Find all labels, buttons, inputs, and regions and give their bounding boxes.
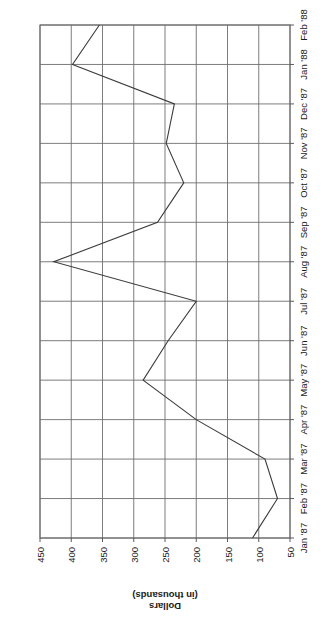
value-tick-label: 100 (253, 547, 264, 623)
category-tick-label: Mar '87 (298, 443, 309, 474)
category-tick-label: Oct '87 (298, 168, 309, 198)
rotated-figure-wrapper: 50100150200250300350400450 Jan '87Feb '8… (0, 0, 323, 623)
value-axis-title-line: Dollars (105, 601, 225, 612)
value-tick-label: 400 (66, 547, 77, 623)
data-series-line (54, 25, 278, 538)
category-tick-label: May '87 (298, 364, 309, 397)
value-tick-label: 450 (35, 547, 46, 623)
category-tick-label: Apr '87 (298, 405, 309, 435)
line-chart-plot (0, 0, 323, 623)
category-tick-label: Aug '87 (298, 246, 309, 278)
category-tick-label: Jun '87 (298, 326, 309, 356)
category-tick-label: Feb '88 (298, 9, 309, 40)
value-axis-title-line: (in thousands) (105, 590, 225, 601)
value-tick-label: 50 (285, 547, 296, 623)
category-tick-label: Jul '87 (298, 288, 309, 315)
category-tick-label: Jan '87 (298, 523, 309, 553)
category-tick-label: Feb '87 (298, 483, 309, 514)
chart-figure: 50100150200250300350400450 Jan '87Feb '8… (0, 0, 323, 623)
category-tick-label: Sep '87 (298, 206, 309, 238)
category-tick-label: Jan '88 (298, 49, 309, 79)
category-tick-label: Nov '87 (298, 127, 309, 159)
value-axis-title: Dollars(in thousands) (105, 590, 225, 612)
category-tick-label: Dec '87 (298, 88, 309, 120)
